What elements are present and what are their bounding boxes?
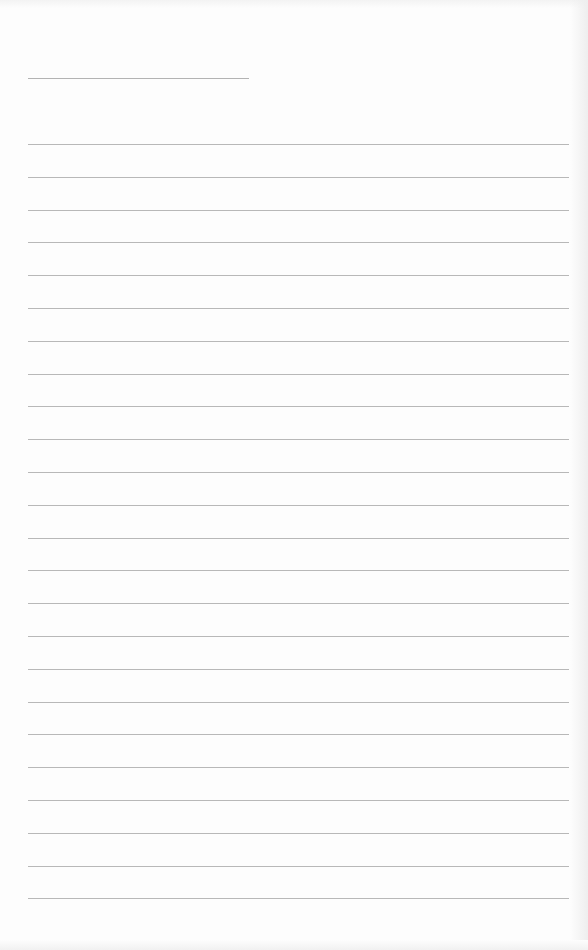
ruled-line [28, 210, 569, 211]
ruled-line [28, 242, 569, 243]
ruled-line [28, 406, 569, 407]
ruled-line [28, 570, 569, 571]
ruled-line [28, 833, 569, 834]
name-line [28, 78, 249, 79]
ruled-line [28, 669, 569, 670]
ruled-line [28, 800, 569, 801]
ruled-line [28, 144, 569, 145]
ruled-line [28, 439, 569, 440]
right-edge-shading [570, 0, 588, 950]
ruled-line [28, 308, 569, 309]
ruled-line [28, 374, 569, 375]
ruled-line [28, 472, 569, 473]
ruled-line [28, 767, 569, 768]
bottom-edge-shading [0, 940, 588, 950]
top-edge-shading [0, 0, 588, 8]
ruled-line [28, 177, 569, 178]
ruled-line [28, 341, 569, 342]
ruled-line [28, 866, 569, 867]
ruled-line [28, 734, 569, 735]
ruled-line [28, 636, 569, 637]
ruled-line [28, 538, 569, 539]
ruled-line [28, 505, 569, 506]
ruled-line [28, 275, 569, 276]
ruled-line [28, 898, 569, 899]
ruled-line [28, 603, 569, 604]
ruled-line [28, 702, 569, 703]
